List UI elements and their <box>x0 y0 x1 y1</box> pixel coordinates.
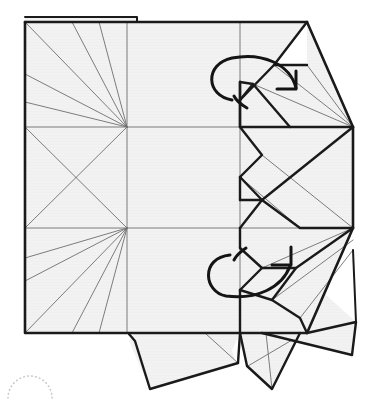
bottom-flap-right <box>240 333 300 389</box>
bottom-flap-left <box>129 333 238 389</box>
dotted-arc-group <box>8 376 52 398</box>
right-band-middle <box>240 127 353 228</box>
dotted-reference-arc <box>8 376 52 398</box>
main-square-sheet <box>25 22 240 333</box>
origami-crease-pattern-svg <box>0 0 371 404</box>
edge-extra-flap-join <box>353 250 356 322</box>
origami-figure-root: Origami crease pattern with twist-fold a… <box>0 0 371 404</box>
